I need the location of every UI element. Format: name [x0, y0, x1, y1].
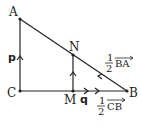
point-C	[18, 89, 21, 92]
frac-CB-vec: CB	[107, 101, 122, 112]
label-N: N	[69, 40, 80, 54]
label-C: C	[7, 86, 16, 100]
frac-BA-vec: BA	[115, 58, 130, 69]
frac-CB-den: 2	[98, 106, 104, 117]
triangle-diagram: A C B N M p q 1 2 BA 1 2 CB	[0, 0, 141, 129]
point-A	[18, 17, 21, 20]
arrow-halfBA-icon	[98, 74, 102, 79]
label-q: q	[80, 93, 88, 106]
label-p: p	[8, 51, 16, 64]
label-B: B	[129, 86, 138, 100]
label-A: A	[8, 5, 18, 19]
frac-CB-num: 1	[99, 95, 105, 106]
frac-BA-den: 2	[106, 63, 112, 74]
frac-BA-num: 1	[107, 52, 113, 63]
label-M: M	[64, 93, 76, 107]
